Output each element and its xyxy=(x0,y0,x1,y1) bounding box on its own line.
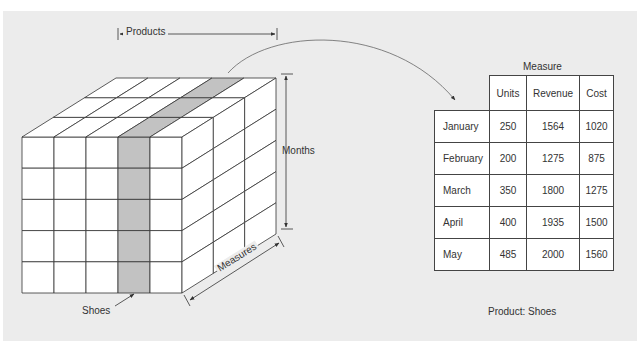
cube-front-cell xyxy=(118,168,150,199)
products-axis-label: Products xyxy=(123,27,168,37)
table-row: March 350 1800 1275 xyxy=(435,175,614,207)
cell-revenue: 1275 xyxy=(527,143,580,175)
shoes-measure-table: Units Revenue Cost January 250 1564 1020… xyxy=(434,75,614,271)
cube-front-cell xyxy=(86,199,118,230)
cube-front-cell xyxy=(22,262,54,293)
cell-cost: 1560 xyxy=(580,239,614,271)
cube-front-cell xyxy=(22,168,54,199)
row-month: May xyxy=(435,239,490,271)
cube-front-cell xyxy=(118,262,150,293)
table-row: February 200 1275 875 xyxy=(435,143,614,175)
cell-cost: 1275 xyxy=(580,175,614,207)
table-row: April 400 1935 1500 xyxy=(435,207,614,239)
table-corner xyxy=(435,76,490,111)
cube-front-cell xyxy=(54,168,86,199)
cube-front-cell xyxy=(118,199,150,230)
column-header-cost: Cost xyxy=(580,76,614,111)
cube-front-cell xyxy=(54,231,86,262)
cube-front-cell xyxy=(118,137,150,168)
table-row: May 485 2000 1560 xyxy=(435,239,614,271)
cube-front-cell xyxy=(150,137,182,168)
cube-front-cell xyxy=(22,137,54,168)
cell-revenue: 2000 xyxy=(527,239,580,271)
cube-front-cell xyxy=(86,137,118,168)
cube-front-cell xyxy=(150,199,182,230)
cell-units: 350 xyxy=(490,175,527,207)
table-row: January 250 1564 1020 xyxy=(435,111,614,143)
cell-cost: 1020 xyxy=(580,111,614,143)
row-month: February xyxy=(435,143,490,175)
shoes-callout-arrow xyxy=(115,294,134,306)
cell-units: 250 xyxy=(490,111,527,143)
measure-group-header: Measure xyxy=(523,62,562,72)
cube-front-cell xyxy=(22,231,54,262)
cube-front-cell xyxy=(86,231,118,262)
shoes-callout-label: Shoes xyxy=(82,306,110,316)
cell-units: 485 xyxy=(490,239,527,271)
cube-front-cell xyxy=(22,199,54,230)
cube-front-cell xyxy=(150,231,182,262)
cube-front-cell xyxy=(86,168,118,199)
cube-front-cell xyxy=(150,168,182,199)
column-header-units: Units xyxy=(490,76,527,111)
cell-cost: 1500 xyxy=(580,207,614,239)
cube-front-cell xyxy=(86,262,118,293)
row-month: January xyxy=(435,111,490,143)
cube-front-cell xyxy=(54,137,86,168)
row-month: March xyxy=(435,175,490,207)
cube-front-cell xyxy=(118,231,150,262)
cube-front-cell xyxy=(150,262,182,293)
table-caption: Product: Shoes xyxy=(488,307,556,317)
cube-front-cell xyxy=(54,262,86,293)
cell-revenue: 1564 xyxy=(527,111,580,143)
cell-revenue: 1800 xyxy=(527,175,580,207)
column-header-revenue: Revenue xyxy=(527,76,580,111)
cell-revenue: 1935 xyxy=(527,207,580,239)
cell-units: 400 xyxy=(490,207,527,239)
row-month: April xyxy=(435,207,490,239)
cube-front-cell xyxy=(54,199,86,230)
cell-units: 200 xyxy=(490,143,527,175)
table-header-row: Units Revenue Cost xyxy=(435,76,614,111)
months-axis-label: Months xyxy=(282,146,315,156)
cell-cost: 875 xyxy=(580,143,614,175)
